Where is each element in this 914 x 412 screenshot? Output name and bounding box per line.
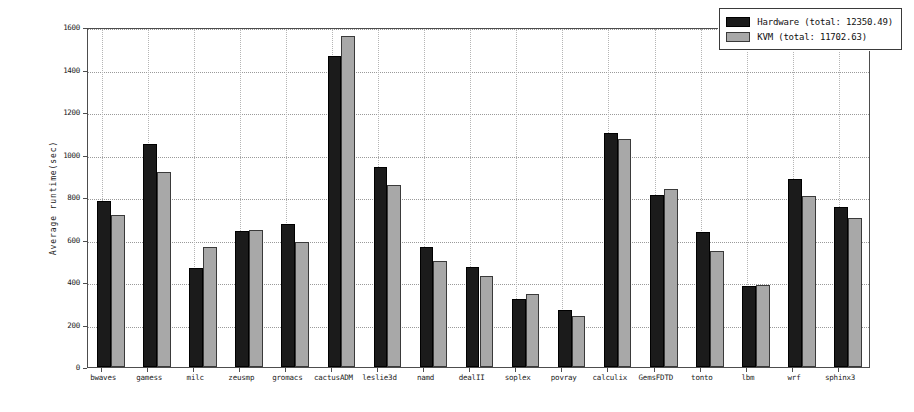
bar-kvm-gromacs — [295, 242, 309, 367]
bar-kvm-wrf — [802, 196, 816, 367]
bar-hardware-dealII — [466, 267, 480, 367]
x-axis-tick-mark — [377, 368, 378, 372]
x-axis-tick-label-povray: povray — [551, 373, 577, 382]
bar-hardware-calculix — [604, 133, 618, 367]
x-axis-tick-mark — [792, 368, 793, 372]
x-axis-tick-mark — [746, 368, 747, 372]
y-axis-tick-mark — [83, 241, 87, 242]
bar-kvm-leslie3d — [387, 185, 401, 367]
legend-label-hardware: Hardware (total: 12350.49) — [757, 17, 893, 27]
x-axis-tick-mark — [193, 368, 194, 372]
bar-hardware-tonto — [696, 232, 710, 367]
y-axis-tick-label: 1200 — [63, 108, 80, 117]
bar-hardware-milc — [189, 268, 203, 367]
x-axis-tick-label-sphinx3: sphinx3 — [825, 373, 855, 382]
bar-kvm-GemsFDTD — [664, 189, 678, 368]
y-axis-tick-mark — [83, 28, 87, 29]
x-axis-tick-label-soplex: soplex — [505, 373, 531, 382]
bar-kvm-milc — [203, 247, 217, 367]
x-axis-tick-label-wrf: wrf — [788, 373, 801, 382]
bar-hardware-sphinx3 — [834, 207, 848, 367]
x-axis-tick-label-tonto: tonto — [691, 373, 713, 382]
bar-hardware-namd — [420, 247, 434, 367]
y-axis-tick-mark — [83, 113, 87, 114]
legend-entry-kvm: KVM (total: 11702.63) — [726, 29, 893, 44]
bar-hardware-wrf — [788, 179, 802, 367]
bar-kvm-povray — [572, 316, 586, 367]
bar-kvm-tonto — [710, 251, 724, 367]
bar-hardware-leslie3d — [374, 167, 388, 367]
legend-label-kvm: KVM (total: 11702.63) — [757, 32, 867, 42]
x-axis-tick-mark — [285, 368, 286, 372]
bar-kvm-namd — [433, 261, 447, 367]
bar-kvm-soplex — [526, 294, 540, 367]
x-axis-tick-mark — [239, 368, 240, 372]
x-axis-tick-label-gamess: gamess — [136, 373, 162, 382]
y-axis-tick-mark — [83, 368, 87, 369]
x-axis-tick-label-gromacs: gromacs — [272, 373, 302, 382]
y-axis-tick-label: 800 — [67, 193, 80, 202]
bar-hardware-zeusmp — [235, 231, 249, 367]
x-axis-tick-mark — [331, 368, 332, 372]
x-axis-tick-mark — [654, 368, 655, 372]
y-axis-tick-label: 400 — [67, 278, 80, 287]
x-axis-tick-mark — [561, 368, 562, 372]
x-axis-tick-label-bwaves: bwaves — [90, 373, 116, 382]
y-axis-label: Average runtime(sec) — [49, 141, 58, 255]
x-axis-tick-label-leslie3d: leslie3d — [362, 373, 397, 382]
x-axis-tick-mark — [515, 368, 516, 372]
bar-kvm-lbm — [756, 285, 770, 367]
y-axis-tick-mark — [83, 326, 87, 327]
legend-swatch-hardware — [726, 17, 750, 27]
x-axis-tick-mark — [423, 368, 424, 372]
bar-kvm-gamess — [157, 172, 171, 368]
x-axis-tick-label-cactusADM: cactusADM — [314, 373, 353, 382]
x-axis-tick-label-milc: milc — [187, 373, 204, 382]
bar-hardware-bwaves — [97, 201, 111, 367]
bar-hardware-gamess — [143, 144, 157, 367]
x-axis-tick-label-lbm: lbm — [741, 373, 754, 382]
bar-kvm-dealII — [480, 276, 494, 367]
x-axis-tick-label-calculix: calculix — [593, 373, 628, 382]
bar-hardware-lbm — [742, 286, 756, 367]
plot-area — [87, 28, 870, 368]
bar-kvm-zeusmp — [249, 230, 263, 367]
x-axis-tick-mark — [838, 368, 839, 372]
x-axis-tick-label-zeusmp: zeusmp — [228, 373, 254, 382]
bar-hardware-povray — [558, 310, 572, 367]
y-axis-tick-mark — [83, 71, 87, 72]
y-axis-tick-label: 0 — [76, 363, 80, 372]
bar-hardware-soplex — [512, 299, 526, 367]
bar-hardware-gromacs — [281, 224, 295, 367]
bar-kvm-bwaves — [111, 215, 125, 367]
y-axis-tick-mark — [83, 198, 87, 199]
legend-swatch-kvm — [726, 32, 750, 42]
figure-canvas: Average runtime(sec) 0200400600800100012… — [0, 0, 914, 412]
legend-entry-hardware: Hardware (total: 12350.49) — [726, 14, 893, 29]
x-axis-tick-label-dealII: dealII — [459, 373, 485, 382]
bars-layer — [88, 29, 869, 367]
y-axis-tick-label: 1000 — [63, 151, 80, 160]
x-axis-tick-mark — [700, 368, 701, 372]
y-axis-tick-label: 1600 — [63, 23, 80, 32]
chart-legend: Hardware (total: 12350.49) KVM (total: 1… — [719, 8, 902, 50]
y-axis-tick-label: 600 — [67, 236, 80, 245]
x-axis-tick-label-GemsFDTD: GemsFDTD — [639, 373, 674, 382]
bar-hardware-cactusADM — [328, 56, 342, 367]
y-axis-tick-mark — [83, 283, 87, 284]
bar-kvm-sphinx3 — [848, 218, 862, 367]
bar-kvm-cactusADM — [341, 36, 355, 368]
y-axis-tick-label: 1400 — [63, 66, 80, 75]
x-axis-tick-mark — [101, 368, 102, 372]
x-axis-tick-mark — [607, 368, 608, 372]
x-axis-tick-mark — [469, 368, 470, 372]
bar-hardware-GemsFDTD — [650, 195, 664, 367]
y-axis-tick-mark — [83, 156, 87, 157]
x-axis-tick-label-namd: namd — [417, 373, 434, 382]
bar-kvm-calculix — [618, 139, 632, 367]
y-axis-tick-label: 200 — [67, 321, 80, 330]
x-axis-tick-mark — [147, 368, 148, 372]
